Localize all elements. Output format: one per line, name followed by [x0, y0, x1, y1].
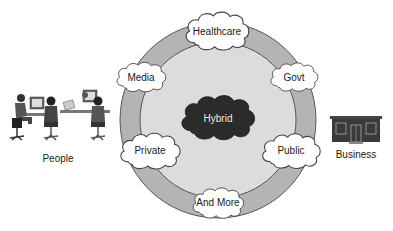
- cloud-label-private: Private: [134, 145, 166, 156]
- cloud-healthcare: Healthcare: [186, 12, 249, 50]
- people-label: People: [42, 153, 74, 164]
- cloud-label-media: Media: [127, 72, 155, 83]
- people-at-computers-icon: [10, 90, 110, 140]
- cloud-diagram: Hybrid Healthcare Media Govt Private Pub…: [0, 0, 393, 231]
- cloud-label-and-more: And More: [196, 197, 240, 208]
- business-label: Business: [336, 149, 377, 160]
- cloud-label-public: Public: [277, 145, 304, 156]
- building-storefront-icon: [330, 116, 382, 144]
- cloud-label-healthcare: Healthcare: [193, 26, 242, 37]
- cloud-media: Media: [117, 62, 166, 91]
- hybrid-label: Hybrid: [204, 113, 233, 124]
- cloud-label-govt: Govt: [283, 72, 304, 83]
